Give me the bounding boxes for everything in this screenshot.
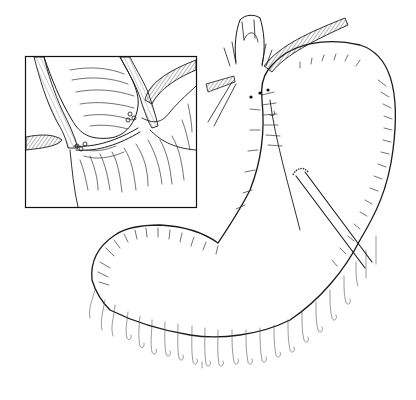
omentum (89, 236, 376, 368)
vessels (206, 18, 372, 268)
suture-dot (249, 95, 252, 98)
suture-dot (258, 91, 261, 94)
suture-dot (266, 88, 269, 91)
inset-detail (26, 57, 197, 208)
greater-curvature-hatching (300, 54, 392, 266)
esophagus-hatching (262, 92, 282, 146)
stomach-illustration (0, 0, 416, 400)
